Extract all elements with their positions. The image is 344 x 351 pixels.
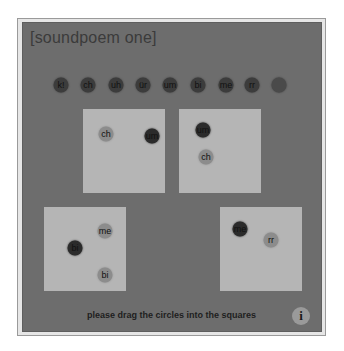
drop-square-4[interactable] [220, 207, 302, 291]
placed-circle[interactable]: bi [98, 268, 113, 283]
source-circle[interactable]: k! [54, 78, 69, 93]
placed-circle[interactable]: um [145, 129, 160, 144]
source-circle[interactable]: me [219, 78, 234, 93]
source-circle[interactable]: ch [81, 78, 96, 93]
drop-square-1[interactable] [83, 109, 165, 193]
placed-circle[interactable]: um [196, 123, 211, 138]
source-circle[interactable]: bi [191, 78, 206, 93]
drop-square-2[interactable] [179, 109, 261, 193]
source-circle[interactable]: um [163, 78, 178, 93]
placed-circle[interactable]: rr [264, 233, 279, 248]
placed-circle[interactable]: me [98, 224, 113, 239]
placed-circle[interactable]: bi [68, 241, 83, 256]
app-title: [soundpoem one] [30, 29, 157, 47]
placed-circle[interactable]: ch [199, 150, 214, 165]
drop-square-3[interactable] [44, 207, 126, 291]
source-circle[interactable]: rr [245, 78, 260, 93]
info-button[interactable]: i [292, 307, 310, 325]
source-circle[interactable]: uh [109, 78, 124, 93]
source-circle[interactable]: ür [136, 78, 151, 93]
placed-circle[interactable]: me [233, 222, 248, 237]
placed-circle[interactable]: ch [99, 127, 114, 142]
instruction-text: please drag the circles into the squares [87, 310, 256, 320]
info-icon: i [299, 308, 303, 323]
source-circle-blank[interactable] [272, 78, 287, 93]
